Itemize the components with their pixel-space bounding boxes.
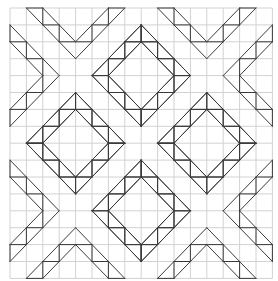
chevron-outer-edge — [76, 143, 125, 194]
chevron-outer-edge — [26, 143, 75, 194]
chevron-outer-edge — [10, 211, 59, 262]
chevron-outer-edge — [10, 76, 59, 127]
chevron-outer-edge — [158, 143, 207, 194]
chevron-outer-edge — [10, 25, 59, 76]
chevron-outer-edge — [223, 160, 272, 211]
chevron-outer-edge — [207, 8, 256, 59]
chevron-outer-edge — [26, 93, 75, 144]
chevron-outer-edge — [207, 93, 256, 144]
chevron-outer-edge — [141, 211, 190, 262]
chevron-outer-edge — [223, 76, 272, 127]
chevron-outer-edge — [158, 93, 207, 144]
chevron-outer-edge — [223, 25, 272, 76]
chevron-outer-edge — [92, 211, 141, 262]
chevron-outer-edge — [207, 143, 256, 194]
chevron-outer-edge — [92, 160, 141, 211]
background-grid — [10, 8, 272, 278]
chevron-outer-edge — [158, 8, 207, 59]
chevron-outer-edge — [26, 8, 75, 59]
chevron-outer-edge — [141, 160, 190, 211]
chevron-outer-edge — [92, 25, 141, 76]
chevron-outer-edge — [223, 211, 272, 262]
chevron-outer-edge — [158, 228, 207, 279]
chevron-outer-edge — [76, 93, 125, 144]
chevron-outer-edge — [92, 76, 141, 127]
chevron-outer-edge — [207, 228, 256, 279]
chevron-outer-edge — [26, 228, 75, 279]
chevron-outer-edge — [10, 160, 59, 211]
chevron-outer-edge — [141, 25, 190, 76]
chevron-outer-edge — [76, 228, 125, 279]
chevron-outer-edge — [76, 8, 125, 59]
chevron-outer-edge — [141, 76, 190, 127]
quilt-pattern-diagram — [0, 0, 278, 281]
